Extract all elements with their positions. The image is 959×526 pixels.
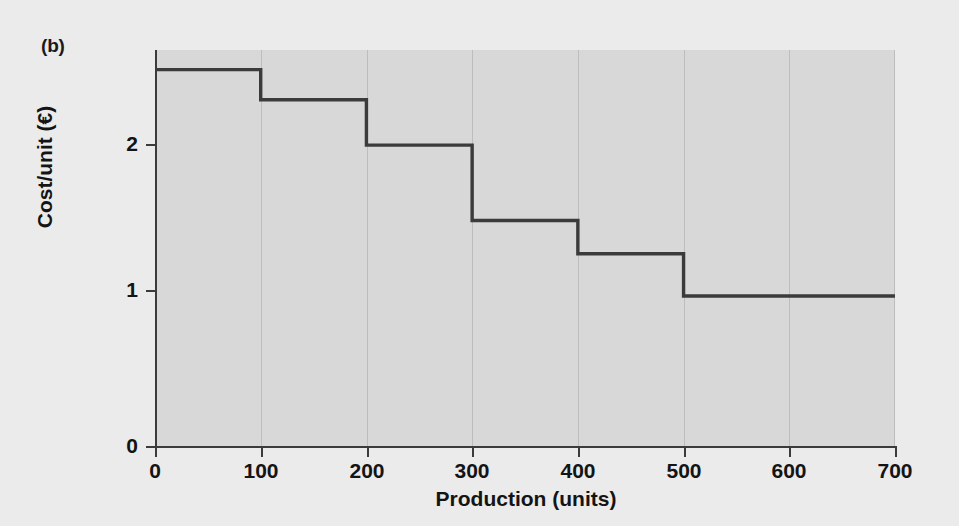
x-ticklabel-100: 100 [221, 459, 301, 483]
x-axis-title: Production (units) [155, 487, 897, 511]
gridline-x-500 [684, 50, 685, 447]
x-ticklabel-600: 600 [749, 459, 829, 483]
x-ticklabel-300: 300 [432, 459, 512, 483]
y-axis-title: Cost/unit (€) [33, 37, 57, 297]
x-ticklabel-200: 200 [327, 459, 407, 483]
x-tick-0 [155, 448, 157, 457]
y-ticklabel-2: 2 [98, 132, 138, 156]
figure-panel-b: (b) 0 1 2 0 100 200 300 400 500 600 700 … [0, 0, 959, 526]
x-ticklabel-500: 500 [644, 459, 724, 483]
x-tick-300 [472, 448, 474, 457]
gridline-x-400 [578, 50, 579, 447]
x-tick-600 [789, 448, 791, 457]
y-ticklabel-1: 1 [98, 278, 138, 302]
x-ticklabel-0: 0 [115, 459, 195, 483]
x-tick-700 [895, 448, 897, 457]
y-tick-0 [146, 446, 155, 448]
x-tick-500 [684, 448, 686, 457]
x-ticklabel-400: 400 [538, 459, 618, 483]
plot-area [155, 50, 895, 447]
x-tick-100 [261, 448, 263, 457]
gridline-x-700 [894, 50, 895, 447]
gridline-x-300 [472, 50, 473, 447]
y-ticklabel-0: 0 [98, 434, 138, 458]
gridline-x-100 [261, 50, 262, 447]
x-ticklabel-700: 700 [855, 459, 935, 483]
y-tick-1 [146, 290, 155, 292]
x-tick-400 [578, 448, 580, 457]
x-tick-200 [367, 448, 369, 457]
y-tick-2 [146, 144, 155, 146]
gridline-x-600 [789, 50, 790, 447]
gridline-x-200 [367, 50, 368, 447]
y-axis-line [155, 50, 157, 449]
x-axis-line [155, 446, 897, 448]
